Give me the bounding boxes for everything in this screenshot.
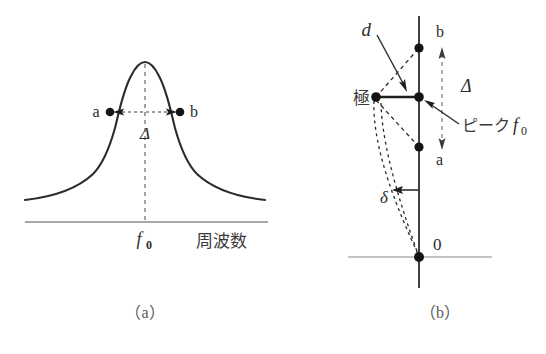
peak-frequency-subscript: 0 [521, 124, 527, 138]
center-frequency-label: f [136, 229, 144, 249]
point-a-marker [414, 142, 423, 151]
frequency-axis-label: 周波数 [196, 231, 247, 251]
peak-leader-line [430, 104, 459, 124]
panel-a: a b Δ f 0 周波数 （a） [25, 62, 268, 321]
point-a-label: a [436, 151, 443, 168]
figure-canvas: a b Δ f 0 周波数 （a） [0, 0, 546, 354]
figure-root: a b Δ f 0 周波数 （a） [0, 0, 546, 354]
distance-d-label: d [362, 19, 372, 40]
peak-label: ピーク [462, 116, 510, 135]
peak-leader-arrowhead [424, 100, 435, 109]
bandwidth-delta-label: Δ [139, 124, 150, 143]
origin-label: 0 [433, 235, 442, 254]
point-a-label: a [92, 103, 99, 120]
center-frequency-subscript: 0 [146, 238, 152, 252]
point-b-marker [414, 43, 423, 52]
panel-b: Δ d 極 b a ピーク f 0 δ [348, 16, 527, 321]
d-leader-arrowhead [399, 79, 407, 92]
a-to-origin-dotted [381, 103, 418, 254]
d-leader-line [377, 35, 404, 85]
panel-b-delta-label: Δ [460, 76, 472, 96]
point-b-marker [176, 108, 185, 117]
peak-frequency-label: f [513, 115, 521, 135]
panel-b-caption: （b） [420, 304, 460, 321]
point-a-marker [106, 108, 115, 117]
panel-b-delta-arrowhead-down [439, 138, 446, 150]
peak-point-marker [414, 92, 424, 102]
origin-marker [414, 252, 424, 262]
delta-small-label: δ [380, 188, 389, 207]
pole-label: 極 [353, 88, 370, 108]
pole-to-origin-dotted-left [374, 101, 418, 254]
point-b-label: b [436, 23, 444, 40]
point-b-label: b [190, 103, 198, 120]
pole-marker [371, 92, 381, 102]
panel-a-caption: （a） [125, 304, 164, 321]
